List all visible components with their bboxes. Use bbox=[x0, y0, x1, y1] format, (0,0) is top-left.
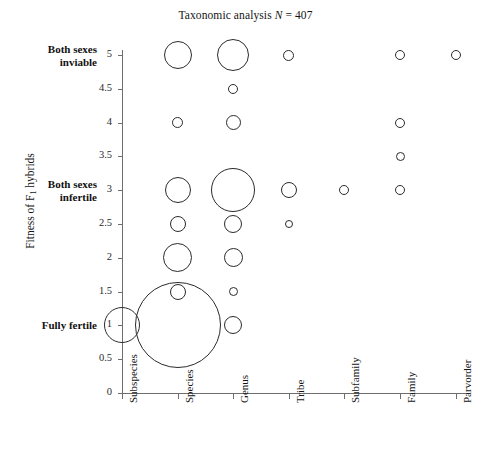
bubble-marker bbox=[283, 50, 294, 61]
bubble-marker bbox=[164, 41, 192, 69]
bubble-chart-figure: Taxonomic analysis N = 407 Fitness of F1… bbox=[0, 0, 491, 470]
bubble-marker bbox=[451, 50, 461, 60]
bubble-marker bbox=[229, 287, 238, 296]
bubble-marker bbox=[165, 177, 191, 203]
chart-title-prefix: Taxonomic analysis bbox=[178, 9, 274, 21]
bubble-marker bbox=[339, 185, 349, 195]
y-axis-state-label-line1: Fully fertile bbox=[42, 319, 97, 332]
bubble-marker bbox=[395, 50, 405, 60]
y-axis-tick-mark bbox=[118, 123, 123, 124]
x-axis-tick-mark bbox=[233, 394, 234, 399]
y-axis-state-label-line1: Both sexes bbox=[48, 43, 97, 56]
x-axis-tick-mark bbox=[344, 394, 345, 399]
bubble-marker bbox=[285, 220, 293, 228]
y-axis-tick-mark bbox=[118, 55, 123, 56]
x-axis-tick-label-species: Species bbox=[183, 369, 195, 403]
y-axis-state-label: Both sexesinfertile bbox=[48, 178, 97, 203]
y-axis-title-tail: hybrids bbox=[24, 153, 36, 190]
y-axis-tick-label: 2.5 bbox=[82, 217, 112, 228]
y-axis-tick-mark bbox=[118, 156, 123, 157]
y-axis-state-label-line2: inviable bbox=[48, 56, 97, 69]
bubble-marker bbox=[135, 282, 221, 368]
y-axis-tick-label: 4 bbox=[82, 116, 112, 127]
y-axis-tick-label: 0 bbox=[82, 386, 112, 397]
bubble-marker bbox=[170, 216, 186, 232]
chart-title: Taxonomic analysis N = 407 bbox=[0, 9, 491, 21]
x-axis-tick-label-genus: Genus bbox=[238, 375, 250, 403]
x-axis-tick-label-subfamily: Subfamily bbox=[349, 357, 361, 403]
bubble-marker bbox=[170, 284, 186, 300]
bubble-marker bbox=[163, 243, 192, 272]
y-axis-state-label: Fully fertile bbox=[42, 319, 97, 332]
x-axis-tick-label-family: Family bbox=[405, 372, 417, 403]
chart-title-value: = 407 bbox=[282, 9, 312, 21]
bubble-marker bbox=[172, 117, 183, 128]
bubble-marker bbox=[226, 115, 241, 130]
bubble-marker bbox=[211, 168, 255, 212]
y-axis-tick-mark bbox=[118, 190, 123, 191]
x-axis-tick-label-parvorder: Parvorder bbox=[461, 360, 473, 403]
y-axis-tick-mark bbox=[118, 325, 123, 326]
y-axis-line bbox=[122, 50, 123, 394]
y-axis-state-label-line1: Both sexes bbox=[48, 178, 97, 191]
x-axis-tick-label-subspecies: Subspecies bbox=[127, 354, 139, 403]
y-axis-tick-label: 3.5 bbox=[82, 149, 112, 160]
bubble-marker bbox=[396, 152, 405, 161]
bubble-marker bbox=[395, 185, 405, 195]
y-axis-state-label: Both sexesinviable bbox=[48, 43, 97, 68]
bubble-marker bbox=[224, 215, 242, 233]
y-axis-tick-label: 4.5 bbox=[82, 82, 112, 93]
y-axis-tick-mark bbox=[118, 224, 123, 225]
x-axis-tick-mark bbox=[178, 394, 179, 399]
bubble-marker bbox=[217, 39, 249, 71]
x-axis-tick-mark bbox=[456, 394, 457, 399]
bubble-marker bbox=[224, 248, 243, 267]
y-axis-tick-label: 0.5 bbox=[82, 352, 112, 363]
bubble-marker bbox=[224, 316, 242, 334]
y-axis-tick-label: 1.5 bbox=[82, 285, 112, 296]
y-axis-title-subscript: 1 bbox=[29, 191, 38, 195]
y-axis-state-label-line2: infertile bbox=[48, 191, 97, 204]
bubble-marker bbox=[228, 84, 238, 94]
x-axis-tick-mark bbox=[400, 394, 401, 399]
y-axis-title-main: Fitness of F bbox=[24, 195, 36, 249]
x-axis-tick-mark bbox=[122, 394, 123, 399]
y-axis-tick-mark bbox=[118, 258, 123, 259]
x-axis-tick-label-tribe: Tribe bbox=[294, 380, 306, 403]
y-axis-tick-label: 2 bbox=[82, 251, 112, 262]
bubble-marker bbox=[395, 118, 405, 128]
y-axis-tick-mark bbox=[118, 89, 123, 90]
bubble-marker bbox=[281, 182, 297, 198]
y-axis-tick-mark bbox=[118, 359, 123, 360]
y-axis-tick-mark bbox=[118, 292, 123, 293]
y-axis-title: Fitness of F1 hybrids bbox=[24, 121, 36, 281]
x-axis-tick-mark bbox=[289, 394, 290, 399]
